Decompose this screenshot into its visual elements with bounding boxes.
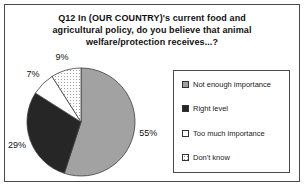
- legend-swatch-icon: [182, 154, 189, 161]
- legend-box: Not enough importance Right level Too mu…: [173, 70, 290, 173]
- pie-label-1: 55%: [139, 128, 157, 138]
- chart-window: Q12 In (OUR COUNTRY)'s current food and …: [0, 0, 306, 189]
- pie-label-4: 9%: [55, 52, 68, 62]
- legend-label: Don't know: [193, 153, 230, 162]
- legend-item: Too much importance: [182, 129, 283, 138]
- legend-swatch-icon: [182, 105, 189, 112]
- legend-item: Not enough importance: [182, 80, 283, 89]
- legend-label: Right level: [193, 104, 228, 113]
- legend-swatch-icon: [182, 81, 189, 88]
- legend-item: Right level: [182, 104, 283, 113]
- pie-label-3: 7%: [26, 69, 39, 79]
- pie-label-2: 29%: [8, 140, 26, 150]
- legend-label: Not enough importance: [193, 80, 271, 89]
- legend-swatch-icon: [182, 130, 189, 137]
- legend-item: Don't know: [182, 153, 283, 162]
- legend-label: Too much importance: [193, 129, 265, 138]
